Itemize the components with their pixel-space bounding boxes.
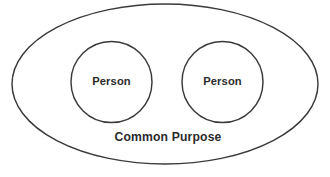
- diagram-canvas: Person Person Common Purpose: [0, 0, 330, 177]
- common-purpose-label: Common Purpose: [114, 130, 221, 144]
- person-label-right: Person: [203, 75, 242, 87]
- diagram-svg: Person Person Common Purpose: [0, 0, 330, 177]
- person-label-left: Person: [92, 75, 131, 87]
